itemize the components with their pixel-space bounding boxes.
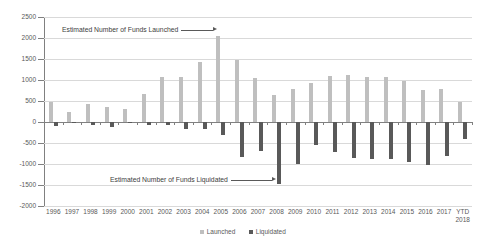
x-tick-label: 1999 bbox=[100, 208, 119, 216]
x-tick-label: 2017 bbox=[435, 208, 454, 216]
y-tick-label-2500: 2500 bbox=[0, 13, 36, 20]
bar-launched bbox=[142, 94, 146, 122]
x-tick bbox=[211, 122, 212, 125]
bar-group bbox=[416, 17, 435, 206]
annotation-liquidated-leader bbox=[231, 180, 272, 181]
x-tick-label: 2014 bbox=[379, 208, 398, 216]
bar-launched bbox=[49, 102, 53, 122]
x-axis-labels: 1996199719981999200020012002200320042005… bbox=[44, 208, 472, 230]
legend-label-liquidated: Liquidated bbox=[256, 228, 286, 235]
x-tick-label: 2007 bbox=[249, 208, 268, 216]
bar-group bbox=[286, 17, 305, 206]
legend: Launched Liquidated bbox=[0, 228, 486, 235]
x-tick-label: 2002 bbox=[156, 208, 175, 216]
bar-group bbox=[360, 17, 379, 206]
x-tick-label: 2013 bbox=[360, 208, 379, 216]
bar-group bbox=[453, 17, 472, 206]
y-tick-label-500: 500 bbox=[0, 97, 36, 104]
bar-group bbox=[435, 17, 454, 206]
bar-launched bbox=[160, 77, 164, 122]
bar-launched bbox=[67, 112, 71, 122]
bar-liquidated bbox=[128, 122, 132, 123]
annotation-liquidated-label: Estimated Number of Funds Liquidated bbox=[110, 176, 228, 184]
bar-liquidated bbox=[407, 122, 411, 162]
x-tick-label: 2010 bbox=[305, 208, 324, 216]
bar-group bbox=[249, 17, 268, 206]
bar-launched bbox=[384, 77, 388, 122]
bar-group bbox=[267, 17, 286, 206]
y-tick-label--500: -500 bbox=[0, 139, 36, 146]
x-tick bbox=[156, 122, 157, 125]
y-tick-label-0: 0 bbox=[0, 118, 36, 125]
x-tick bbox=[44, 122, 45, 125]
legend-swatch-launched bbox=[200, 230, 204, 234]
x-tick-label: 1996 bbox=[44, 208, 63, 216]
x-tick bbox=[81, 122, 82, 125]
bar-liquidated bbox=[203, 122, 207, 129]
annotation-launched-arrow bbox=[213, 27, 217, 31]
x-tick bbox=[398, 122, 399, 125]
x-tick bbox=[118, 122, 119, 125]
y-tick-label-2000: 2000 bbox=[0, 34, 36, 41]
bar-launched bbox=[291, 89, 295, 122]
x-tick bbox=[137, 122, 138, 125]
x-tick-label: 2000 bbox=[118, 208, 137, 216]
bar-liquidated bbox=[110, 122, 114, 127]
x-tick-label: 2015 bbox=[398, 208, 417, 216]
x-tick bbox=[174, 122, 175, 125]
x-tick bbox=[305, 122, 306, 125]
x-tick bbox=[286, 122, 287, 125]
bar-liquidated bbox=[333, 122, 337, 152]
bar-liquidated bbox=[184, 122, 188, 129]
x-tick bbox=[100, 122, 101, 125]
y-tick-label-1500: 1500 bbox=[0, 55, 36, 62]
bar-liquidated bbox=[91, 122, 95, 125]
legend-label-launched: Launched bbox=[207, 228, 236, 235]
bar-launched bbox=[253, 78, 257, 122]
bar-group bbox=[81, 17, 100, 206]
bar-launched bbox=[272, 95, 276, 122]
x-tick bbox=[63, 122, 64, 125]
bar-group bbox=[63, 17, 82, 206]
bar-launched bbox=[198, 62, 202, 122]
bar-group bbox=[379, 17, 398, 206]
x-tick-label: 1997 bbox=[63, 208, 82, 216]
bar-launched bbox=[235, 60, 239, 122]
bar-group bbox=[44, 17, 63, 206]
bar-launched bbox=[123, 109, 127, 122]
bar-liquidated bbox=[352, 122, 356, 158]
x-tick-label: 2006 bbox=[230, 208, 249, 216]
bar-launched bbox=[216, 36, 220, 122]
bar-liquidated bbox=[463, 122, 467, 139]
x-tick bbox=[249, 122, 250, 125]
bar-launched bbox=[309, 83, 313, 122]
bar-liquidated bbox=[296, 122, 300, 164]
y-tick-label-1000: 1000 bbox=[0, 76, 36, 83]
bar-group bbox=[342, 17, 361, 206]
y-tick-label--1000: -1000 bbox=[0, 160, 36, 167]
plot-area bbox=[44, 17, 472, 206]
bar-liquidated bbox=[259, 122, 263, 151]
x-tick bbox=[453, 122, 454, 125]
x-tick bbox=[230, 122, 231, 125]
bar-launched bbox=[421, 90, 425, 122]
x-tick bbox=[360, 122, 361, 125]
funds-launched-liquidated-chart: 25002000150010005000-500-1000-1500-2000 … bbox=[0, 0, 486, 242]
bar-liquidated bbox=[166, 122, 170, 125]
bar-launched bbox=[402, 81, 406, 122]
bar-liquidated bbox=[54, 122, 58, 126]
bar-liquidated bbox=[221, 122, 225, 135]
legend-swatch-liquidated bbox=[249, 230, 253, 234]
gridline--2000 bbox=[44, 206, 472, 207]
bar-launched bbox=[86, 104, 90, 122]
bar-liquidated bbox=[240, 122, 244, 157]
x-tick-label: 1998 bbox=[81, 208, 100, 216]
x-tick-label: 2009 bbox=[286, 208, 305, 216]
annotation-launched-leader bbox=[181, 30, 213, 31]
legend-item-liquidated: Liquidated bbox=[249, 228, 286, 235]
x-tick bbox=[435, 122, 436, 125]
x-tick bbox=[193, 122, 194, 125]
x-tick bbox=[416, 122, 417, 125]
y-tick-label--2000: -2000 bbox=[0, 202, 36, 209]
bar-liquidated bbox=[445, 122, 449, 156]
